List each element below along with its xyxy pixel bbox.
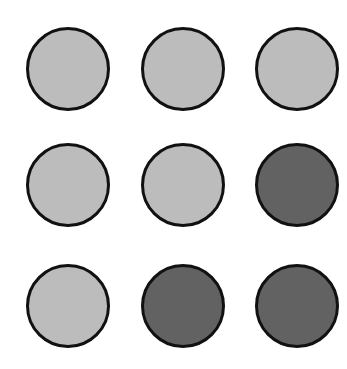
circle-r2-c2 [141, 143, 225, 227]
circle-r3-c1 [26, 264, 110, 348]
circle-r3-c2 [141, 264, 225, 348]
circle-grid [0, 0, 347, 369]
circle-r2-c1 [26, 143, 110, 227]
circle-r1-c3 [255, 27, 339, 111]
circle-r1-c2 [141, 27, 225, 111]
circle-r3-c3 [255, 264, 339, 348]
circle-r1-c1 [26, 27, 110, 111]
circle-r2-c3 [255, 143, 339, 227]
